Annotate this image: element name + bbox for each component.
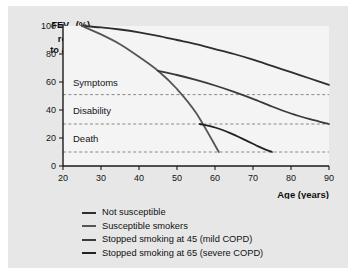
legend-line-icon [82,212,96,214]
plot-area: SymptomsDisabilityDeath02040608010020304… [20,14,336,199]
legend-label: Stopped smoking at 45 (mild COPD) [102,233,252,247]
x-tick-label: 20 [58,173,68,183]
y-tick-label: 20 [46,133,56,143]
x-tick-label: 70 [248,173,258,183]
figure-panel: FEV1 (%) relative to age 25 SymptomsDisa… [8,6,348,268]
legend-line-icon [82,252,96,254]
x-tick-label: 40 [134,173,144,183]
y-tick-label: 40 [46,105,56,115]
zone-label-disability: Disability [73,105,111,116]
x-tick-label: 50 [172,173,182,183]
legend-line-icon [82,239,96,241]
legend-item-stopped-65[interactable]: Stopped smoking at 65 (severe COPD) [82,247,332,261]
x-tick-label: 80 [286,173,296,183]
legend-item-stopped-45[interactable]: Stopped smoking at 45 (mild COPD) [82,233,332,247]
x-tick-label: 30 [96,173,106,183]
legend-item-not-susceptible[interactable]: Not susceptible [82,206,332,220]
chart-svg: SymptomsDisabilityDeath02040608010020304… [20,14,336,199]
zone-label-death: Death [73,133,98,144]
chart-legend: Not susceptible Susceptible smokers Stop… [82,206,332,260]
plot-background [63,26,329,166]
legend-item-susceptible-smokers[interactable]: Susceptible smokers [82,220,332,234]
x-tick-label: 60 [210,173,220,183]
x-tick-label: 90 [324,173,334,183]
legend-line-icon [82,225,96,227]
y-tick-label: 0 [51,161,56,171]
legend-label: Susceptible smokers [102,220,188,234]
y-tick-label: 80 [46,49,56,59]
zone-label-symptoms: Symptoms [73,77,118,88]
legend-label: Stopped smoking at 65 (severe COPD) [102,247,263,261]
y-tick-label: 100 [41,21,56,31]
x-axis-title: Age (years) [277,189,329,199]
y-tick-label: 60 [46,77,56,87]
legend-label: Not susceptible [102,206,166,220]
